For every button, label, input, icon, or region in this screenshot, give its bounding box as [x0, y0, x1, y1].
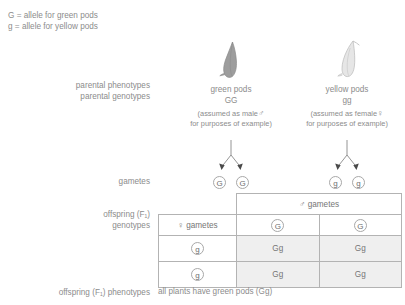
punnett-square: ♂ gametes ♀ gametes G G g Gg Gg g Gg Gg: [158, 193, 402, 288]
parent-male-genotype: GG: [196, 95, 266, 106]
punnett-row-head-1: g: [159, 236, 237, 262]
punnett-top-header-row: ♂ gametes: [159, 194, 402, 215]
female-symbol-icon: ♀: [377, 108, 383, 118]
label-offspring-f1: offspring (F₁): [0, 209, 150, 220]
gamete-female-1: g: [329, 176, 342, 189]
parent-female-phenotype: yellow pods: [312, 84, 382, 95]
punnett-male-header: ♂ gametes: [237, 194, 402, 215]
punnett-col-head-1: G: [237, 215, 320, 236]
punnett-row-head-2: g: [159, 262, 237, 288]
allele-key-line-yellow: g = allele for yellow pods: [8, 21, 98, 32]
male-symbol-icon: ♂: [299, 199, 305, 209]
label-parental-phenotypes: parental phenotypes: [0, 80, 150, 91]
gametes-female-row: gg: [312, 173, 382, 191]
allele-key-line-green: G = allele for green pods: [8, 10, 98, 21]
punnett-column-head-row: ♀ gametes G G: [159, 215, 402, 236]
punnett-col-allele-2: G: [354, 219, 367, 232]
punnett-col-allele-1: G: [271, 219, 284, 232]
parent-male-group: green pods GG: [196, 40, 266, 106]
parent-male-note-line1: (assumed as male: [198, 109, 258, 118]
parent-female-group: yellow pods gg: [312, 40, 382, 106]
parent-female-note-line1: (assumed as female: [311, 109, 378, 118]
punnett-col-head-2: G: [319, 215, 402, 236]
split-arrow-female-icon: [312, 140, 382, 174]
label-parental-genotypes: parental genotypes: [0, 91, 150, 102]
parent-female-genotype: gg: [312, 95, 382, 106]
label-gametes: gametes: [0, 176, 150, 187]
punnett-male-header-label: gametes: [308, 200, 339, 209]
punnett-cell-r1c1: Gg: [237, 236, 320, 262]
allele-key: G = allele for green pods g = allele for…: [8, 10, 98, 32]
gamete-male-2: G: [236, 176, 249, 189]
punnett-cell-r2c2: Gg: [319, 262, 402, 288]
split-arrow-male-icon: [196, 140, 266, 174]
punnett-cell-r1c2: Gg: [319, 236, 402, 262]
gamete-female-2: g: [352, 176, 365, 189]
gametes-male-row: GG: [196, 173, 266, 191]
female-symbol-icon: ♀: [177, 220, 183, 230]
punnett-row-allele-2: g: [191, 268, 204, 281]
male-symbol-icon: ♂: [258, 108, 264, 118]
yellow-pea-pod-icon: [312, 40, 382, 80]
label-offspring-genotypes: genotypes: [0, 220, 150, 231]
punnett-corner-blank: [159, 194, 237, 215]
table-row: g Gg Gg: [159, 236, 402, 262]
punnett-female-header: ♀ gametes: [159, 215, 237, 236]
parent-female-note: (assumed as female♀ for purposes of exam…: [277, 108, 405, 129]
label-offspring-f1-phenotypes: offspring (F₁) phenotypes: [0, 287, 150, 298]
punnett-row-allele-1: g: [191, 242, 204, 255]
table-row: g Gg Gg: [159, 262, 402, 288]
punnett-cell-r2c1: Gg: [237, 262, 320, 288]
gamete-male-1: G: [213, 176, 226, 189]
f1-phenotype-conclusion: all plants have green pods (Gg): [158, 287, 272, 296]
parent-female-note-line2: for purposes of example): [277, 119, 405, 129]
green-pea-pod-icon: [196, 40, 266, 80]
punnett-female-header-label: gametes: [186, 221, 217, 230]
parent-male-phenotype: green pods: [196, 84, 266, 95]
